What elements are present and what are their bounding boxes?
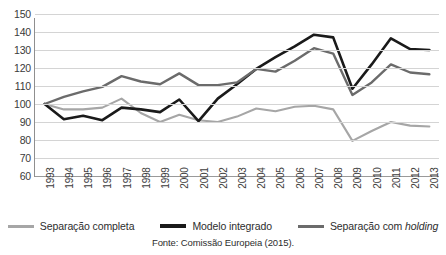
gridline	[35, 68, 439, 69]
legend-item-label: Separação com holding	[330, 220, 438, 232]
y-axis-tick-label: 70	[1, 153, 31, 163]
plot-area	[35, 14, 439, 176]
legend-item-label: Modelo integrado	[192, 220, 272, 232]
gridline	[35, 104, 439, 105]
x-axis-tick: 2013	[409, 178, 446, 216]
y-axis-tick-label: 150	[1, 9, 31, 19]
y-axis-tick-labels: 15014013012011010090807060	[0, 0, 31, 255]
line-swatch-black	[160, 224, 186, 228]
line-swatch-gray	[298, 225, 324, 228]
gridline	[35, 158, 439, 159]
gridline	[35, 86, 439, 87]
chart-legend: Separação completaModelo integradoSepara…	[0, 218, 446, 234]
y-axis-tick-label: 120	[1, 63, 31, 73]
source-note: Fonte: Comissão Europeia (2015).	[0, 237, 446, 248]
legend-item-3[interactable]: Separação com holding	[298, 220, 438, 232]
legend-item-2[interactable]: Modelo integrado	[160, 220, 272, 232]
legend-item-label-italic: holding	[405, 220, 438, 232]
gridline	[35, 32, 439, 33]
y-axis-tick-label: 140	[1, 27, 31, 37]
gridline	[35, 140, 439, 141]
gridline	[35, 122, 439, 123]
legend-item-1[interactable]: Separação completa	[8, 220, 135, 232]
series-lines	[35, 14, 439, 176]
y-axis-tick-label: 110	[1, 81, 31, 91]
gridline	[35, 14, 439, 15]
y-axis-tick-label: 100	[1, 99, 31, 109]
y-axis-tick-label: 80	[1, 135, 31, 145]
y-axis-tick-label: 90	[1, 117, 31, 127]
line-swatch-light	[8, 225, 34, 228]
legend-item-label: Separação completa	[40, 220, 135, 232]
x-axis-tick-labels: 1993199419951996199719981999200020012002…	[35, 178, 439, 216]
series-line-3	[45, 48, 430, 104]
x-axis-tick-label: 2013	[429, 167, 440, 188]
y-axis-tick-label: 130	[1, 45, 31, 55]
line-chart: 15014013012011010090807060 1993199419951…	[0, 0, 446, 255]
gridline	[35, 50, 439, 51]
